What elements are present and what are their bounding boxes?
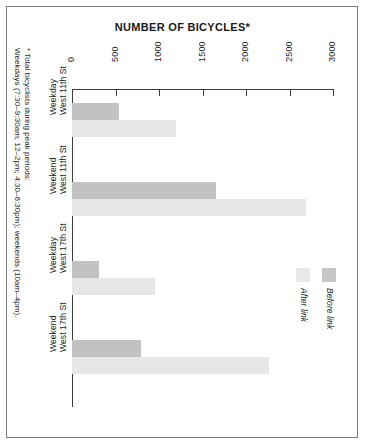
bicycle-count-figure: NUMBER OF BICYCLES* 05001000150020002500…: [0, 0, 365, 447]
footnote-line-2: Weekdays (7:30–9:30am; 12–2pm; 4:30–6:30…: [13, 48, 22, 317]
bar-after-link: [72, 199, 306, 216]
category-label-period: Weekend: [48, 316, 58, 352]
plot-area: [72, 89, 334, 407]
axis-tick-label: 1500: [197, 41, 207, 62]
chart-footnote: * Total bicyclists during peak periods: …: [22, 48, 46, 388]
bar-after-link: [72, 357, 269, 374]
bar-before-link: [72, 103, 119, 120]
bar-before-link: [72, 182, 216, 199]
chart-title: NUMBER OF BICYCLES*: [0, 21, 365, 33]
axis-tick-label: 0: [66, 57, 76, 62]
axis-tick-label: 3000: [327, 41, 337, 62]
bar-after-link: [72, 278, 155, 295]
legend-label: Before link: [325, 288, 335, 329]
category-label-location: West 17th St: [58, 223, 68, 273]
bar-after-link: [72, 120, 176, 137]
category-label-period: Weekend: [48, 158, 58, 194]
legend-swatch: [296, 268, 310, 282]
category-label-location: West 11th St: [58, 145, 68, 194]
category-label-location: West 11th St: [58, 66, 68, 115]
category-label-location: West 17th St: [58, 302, 68, 352]
axis-tick-label: 1000: [153, 41, 163, 62]
legend-swatch: [322, 268, 336, 282]
legend-label: After link: [299, 288, 309, 322]
bar-before-link: [72, 340, 141, 357]
axis-tick-label: 500: [110, 46, 120, 62]
bar-before-link: [72, 261, 99, 278]
category-label-period: Weekday: [48, 79, 58, 115]
category-label-period: Weekday: [48, 237, 58, 273]
footnote-line-1: * Total bicyclists during peak periods:: [23, 48, 32, 181]
axis-tick-label: 2500: [284, 41, 294, 62]
axis-tick-label: 2000: [240, 41, 250, 62]
